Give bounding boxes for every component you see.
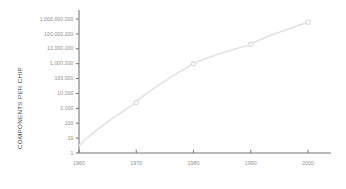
data-point-marker [249,42,253,46]
axes-group [79,10,331,153]
data-series-line [79,22,308,146]
data-point-marker [134,100,138,104]
data-point-marker [306,20,310,24]
chart-container: COMPONENTS PER CHIP 1.000.000.000100.000… [0,0,346,189]
plot-area [0,0,346,189]
data-point-marker [191,62,195,66]
data-series-markers [134,20,310,104]
